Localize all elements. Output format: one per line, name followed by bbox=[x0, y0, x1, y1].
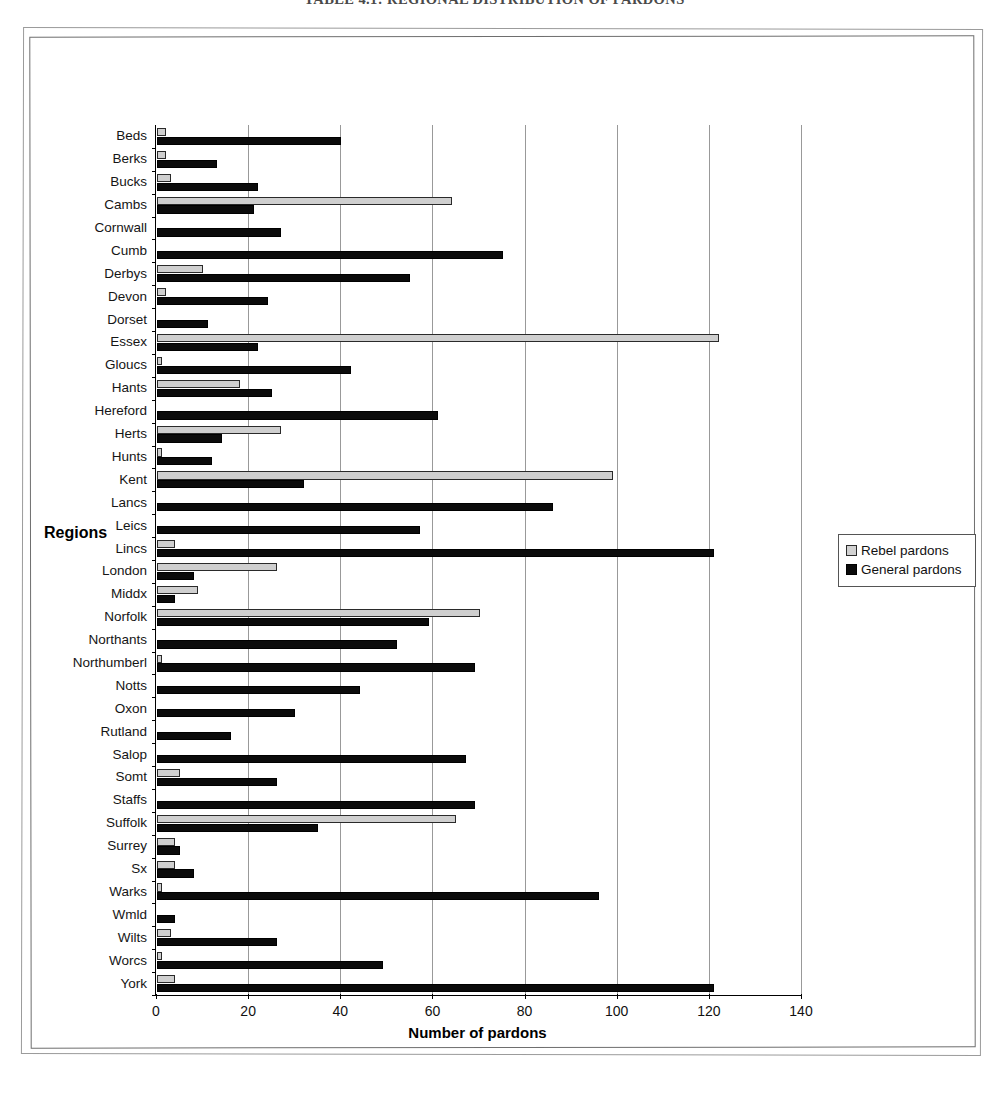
bar-general-pardons bbox=[157, 526, 420, 534]
y-axis-category-label: Wilts bbox=[0, 931, 156, 945]
y-axis-category-label: Derbys bbox=[0, 267, 156, 281]
y-axis-category-label: Hunts bbox=[0, 450, 156, 464]
y-axis-category-label: Essex bbox=[0, 335, 156, 349]
y-axis-category-label: Wmld bbox=[0, 908, 156, 922]
y-axis-category-label: Middx bbox=[0, 587, 156, 601]
bar-general-pardons bbox=[157, 183, 258, 191]
bar-general-pardons bbox=[157, 411, 438, 419]
y-axis-category-label: Somt bbox=[0, 770, 156, 784]
chart-category-row: Lancs bbox=[156, 491, 801, 514]
chart-category-row: Hunts bbox=[156, 446, 801, 469]
bar-general-pardons bbox=[157, 160, 217, 168]
chart-category-row: Essex bbox=[156, 331, 801, 354]
bar-general-pardons bbox=[157, 320, 208, 328]
chart-category-row: Warks bbox=[156, 881, 801, 904]
bar-rebel-pardons bbox=[157, 609, 480, 617]
legend-label-rebel: Rebel pardons bbox=[861, 543, 949, 558]
chart-category-row: Surrey bbox=[156, 835, 801, 858]
chart-legend: Rebel pardons General pardons bbox=[838, 534, 976, 587]
y-axis-category-label: Rutland bbox=[0, 725, 156, 739]
y-axis-category-label: Salop bbox=[0, 748, 156, 762]
x-axis-tick-label: 20 bbox=[218, 1003, 278, 1019]
y-axis-category-label: Surrey bbox=[0, 839, 156, 853]
y-axis-category-label: Bucks bbox=[0, 175, 156, 189]
chart-category-row: Staffs bbox=[156, 789, 801, 812]
y-axis-category-label: Cornwall bbox=[0, 221, 156, 235]
chart-category-row: Worcs bbox=[156, 949, 801, 972]
y-axis-category-label: Herts bbox=[0, 427, 156, 441]
bar-rebel-pardons bbox=[157, 769, 180, 777]
bar-general-pardons bbox=[157, 389, 272, 397]
y-axis-category-label: Northumberl bbox=[0, 656, 156, 670]
bar-chart: 020406080100120140BedsBerksBucksCambsCor… bbox=[0, 0, 989, 1114]
bar-general-pardons bbox=[157, 480, 304, 488]
legend-swatch-rebel-icon bbox=[846, 545, 857, 556]
chart-category-row: Rutland bbox=[156, 720, 801, 743]
bar-rebel-pardons bbox=[157, 929, 171, 937]
x-axis-tick-label: 100 bbox=[587, 1003, 647, 1019]
bar-rebel-pardons bbox=[157, 861, 175, 869]
bar-general-pardons bbox=[157, 228, 281, 236]
y-axis-category-label: Hereford bbox=[0, 404, 156, 418]
bar-rebel-pardons bbox=[157, 174, 171, 182]
y-axis-category-label: Cumb bbox=[0, 244, 156, 258]
bar-general-pardons bbox=[157, 869, 194, 877]
bar-rebel-pardons bbox=[157, 151, 166, 159]
chart-category-row: Norfolk bbox=[156, 606, 801, 629]
bar-general-pardons bbox=[157, 595, 175, 603]
bar-general-pardons bbox=[157, 251, 503, 259]
chart-category-row: Hereford bbox=[156, 400, 801, 423]
y-axis-category-label: Staffs bbox=[0, 793, 156, 807]
bar-rebel-pardons bbox=[157, 448, 162, 456]
chart-category-row: Cambs bbox=[156, 194, 801, 217]
bar-rebel-pardons bbox=[157, 586, 198, 594]
bar-general-pardons bbox=[157, 137, 341, 145]
chart-category-row: Oxon bbox=[156, 697, 801, 720]
x-axis-tick-label: 40 bbox=[310, 1003, 370, 1019]
bar-rebel-pardons bbox=[157, 838, 175, 846]
chart-category-row: Leics bbox=[156, 514, 801, 537]
x-axis-title: Number of pardons bbox=[155, 1024, 800, 1041]
legend-item-general-pardons: General pardons bbox=[846, 560, 968, 579]
bar-general-pardons bbox=[157, 457, 212, 465]
bar-general-pardons bbox=[157, 778, 277, 786]
chart-category-row: Dorset bbox=[156, 308, 801, 331]
y-axis-category-label: London bbox=[0, 564, 156, 578]
chart-category-row: Sx bbox=[156, 858, 801, 881]
y-axis-category-label: Lancs bbox=[0, 496, 156, 510]
bar-rebel-pardons bbox=[157, 380, 240, 388]
chart-category-row: Middx bbox=[156, 583, 801, 606]
y-axis-category-label: Suffolk bbox=[0, 816, 156, 830]
chart-category-row: Berks bbox=[156, 148, 801, 171]
bar-rebel-pardons bbox=[157, 265, 203, 273]
x-axis-tick-label: 80 bbox=[495, 1003, 555, 1019]
bar-rebel-pardons bbox=[157, 540, 175, 548]
y-axis-category-label: Berks bbox=[0, 152, 156, 166]
chart-category-row: Somt bbox=[156, 766, 801, 789]
bar-general-pardons bbox=[157, 984, 714, 992]
bar-rebel-pardons bbox=[157, 357, 162, 365]
chart-category-row: Suffolk bbox=[156, 812, 801, 835]
bar-rebel-pardons bbox=[157, 655, 162, 663]
chart-category-row: Wilts bbox=[156, 926, 801, 949]
plot-area: 020406080100120140BedsBerksBucksCambsCor… bbox=[155, 125, 801, 996]
y-axis-title: Regions bbox=[44, 524, 107, 542]
bar-general-pardons bbox=[157, 618, 429, 626]
bar-general-pardons bbox=[157, 297, 268, 305]
bar-general-pardons bbox=[157, 205, 254, 213]
bar-general-pardons bbox=[157, 549, 714, 557]
chart-category-row: Devon bbox=[156, 285, 801, 308]
x-axis-tick-label: 120 bbox=[679, 1003, 739, 1019]
bar-rebel-pardons bbox=[157, 334, 719, 342]
bar-rebel-pardons bbox=[157, 197, 452, 205]
bar-rebel-pardons bbox=[157, 563, 277, 571]
chart-category-row: Bucks bbox=[156, 171, 801, 194]
chart-category-row: Hants bbox=[156, 377, 801, 400]
gridline bbox=[801, 125, 802, 995]
bar-general-pardons bbox=[157, 434, 222, 442]
y-axis-category-label: Notts bbox=[0, 679, 156, 693]
chart-category-row: Cumb bbox=[156, 239, 801, 262]
y-axis-category-label: Oxon bbox=[0, 702, 156, 716]
bar-general-pardons bbox=[157, 915, 175, 923]
legend-item-rebel-pardons: Rebel pardons bbox=[846, 541, 968, 560]
